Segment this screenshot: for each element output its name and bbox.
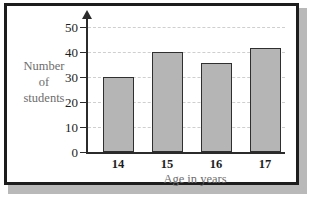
- x-tick-label-16: 16: [196, 158, 236, 171]
- y-tick-label-50: 50: [38, 21, 78, 34]
- gridline-50: [88, 27, 285, 28]
- x-tick-label-17: 17: [245, 158, 285, 171]
- y-axis-title-line-3: students: [14, 90, 74, 106]
- y-tick-label-10: 10: [38, 121, 78, 134]
- bar-chart-figure: 50 40 30 20 10 0 14 15 16 17 Age in year…: [0, 0, 310, 199]
- y-tick-label-0: 0: [38, 146, 78, 159]
- y-tick-mark-40: [80, 52, 87, 53]
- y-tick-mark-50: [80, 27, 87, 28]
- x-axis-title: Age in years: [120, 173, 270, 186]
- y-axis-arrow-icon: [82, 10, 92, 19]
- y-tick-mark-10: [80, 127, 87, 128]
- bar-age-17: [250, 48, 281, 152]
- bar-age-14: [103, 77, 134, 152]
- plot-area: 50 40 30 20 10 0 14 15 16 17 Age in year…: [0, 0, 310, 199]
- x-axis-line: [86, 152, 285, 154]
- bar-age-16: [201, 63, 232, 152]
- x-tick-label-14: 14: [98, 158, 138, 171]
- y-axis-title-line-1: Number: [14, 58, 74, 74]
- y-tick-mark-0: [80, 152, 87, 153]
- y-axis-title: Number of students: [14, 58, 74, 106]
- y-axis-line: [86, 18, 88, 152]
- y-tick-mark-30: [80, 77, 87, 78]
- y-axis-title-line-2: of: [14, 74, 74, 90]
- y-tick-mark-20: [80, 102, 87, 103]
- x-tick-label-15: 15: [147, 158, 187, 171]
- bar-age-15: [152, 52, 183, 152]
